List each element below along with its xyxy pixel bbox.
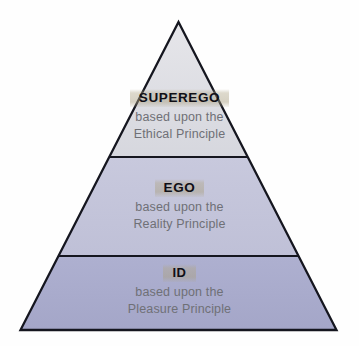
pyramid-diagram — [0, 0, 359, 346]
figure-canvas: SUPEREGO based upon the Ethical Principl… — [0, 0, 359, 346]
pyramid-tier-id — [21, 256, 337, 330]
pyramid-tier-ego — [59, 157, 299, 256]
pyramid-tier-superego — [110, 22, 248, 157]
